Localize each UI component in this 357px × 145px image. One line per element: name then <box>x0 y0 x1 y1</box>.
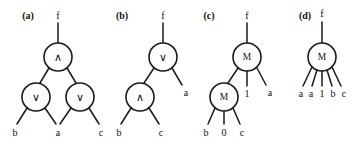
panel-a-input-label-c: c <box>99 127 104 138</box>
panel-b-input-wire-a <box>172 68 182 85</box>
panel-a-input-wire-c <box>89 108 99 124</box>
panel-a: (a) f ∧ ∨ ∨ b a c <box>13 10 104 138</box>
panel-b-input-wire-c <box>149 108 159 124</box>
panel-a-label: (a) <box>22 10 34 22</box>
panel-a-left-or-gate-symbol: ∨ <box>32 91 40 103</box>
panel-a-input-label-a: a <box>56 127 61 138</box>
panel-c-input-label-1: 1 <box>245 88 250 99</box>
panel-b-output-label: f <box>161 10 165 21</box>
panel-d-input-wire-b <box>327 70 332 86</box>
panel-d-input-wire-c <box>332 67 341 86</box>
panel-b-input-label-c: c <box>159 127 164 138</box>
panel-d-input-label-a1: a <box>299 88 304 99</box>
panel-c-input-label-a: a <box>268 87 273 98</box>
panel-c: (c) f M 1 a M b 0 c <box>203 10 272 138</box>
panel-d-root-majority-gate-symbol: M <box>318 52 327 62</box>
panel-c-label: (c) <box>203 10 214 22</box>
panel-d-label: (d) <box>299 10 311 22</box>
panel-b-input-wire-b <box>121 108 131 124</box>
logic-gate-figure: (a) f ∧ ∨ ∨ b a c <box>0 0 357 145</box>
panel-d-input-wire-a2 <box>312 70 317 86</box>
panel-a-left-input-wire-a <box>45 108 56 124</box>
panel-c-child-majority-gate-symbol: M <box>220 92 229 102</box>
panel-a-root-and-gate-symbol: ∧ <box>54 51 62 63</box>
panel-c-input-wire-a <box>257 68 266 85</box>
panel-d-input-wire-a1 <box>303 67 312 86</box>
panel-b-root-or-gate-symbol: ∨ <box>159 51 167 63</box>
panel-a-root-to-right-wire <box>67 68 76 83</box>
panel-d-output-label: f <box>320 8 324 19</box>
panel-b-label: (b) <box>116 10 128 22</box>
panel-d-input-label-c: c <box>342 88 347 99</box>
panel-c-input-wire-b <box>208 108 215 124</box>
panel-a-right-or-gate-symbol: ∨ <box>76 91 84 103</box>
panel-d-input-label-b: b <box>331 88 336 99</box>
panel-a-root-to-left-wire <box>40 68 49 83</box>
panel-d: (d) f M a a 1 b c <box>299 8 347 99</box>
panel-c-input-label-c: c <box>240 127 245 138</box>
panel-c-input-label-b: b <box>204 127 209 138</box>
panel-b-child-and-gate-symbol: ∧ <box>136 91 144 103</box>
panel-c-input-label-0: 0 <box>222 127 227 138</box>
panel-c-input-wire-c <box>233 108 240 124</box>
panel-c-root-to-child-wire <box>228 68 238 83</box>
panel-a-output-label: f <box>56 10 60 21</box>
panel-a-right-input-wire-a <box>60 108 71 124</box>
panel-a-input-label-b: b <box>13 127 18 138</box>
panel-b-root-to-child-wire <box>144 68 154 83</box>
panel-d-input-label-a2: a <box>309 88 314 99</box>
panel-b-input-label-b: b <box>117 127 122 138</box>
panel-b-input-label-a: a <box>184 87 189 98</box>
panel-c-root-majority-gate-symbol: M <box>243 52 252 62</box>
panel-c-output-label: f <box>245 10 249 21</box>
panel-b: (b) f ∨ a ∧ b c <box>116 10 189 138</box>
panel-a-input-wire-b <box>17 108 27 124</box>
panel-d-input-label-1: 1 <box>320 88 325 99</box>
